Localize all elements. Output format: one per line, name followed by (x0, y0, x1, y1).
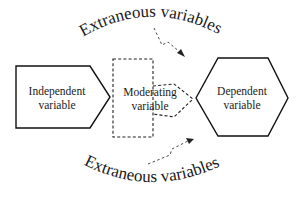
dependent-variable-node: Dependent variable (196, 58, 288, 136)
independent-label-line2: variable (38, 99, 75, 111)
hexagon-shape (196, 58, 288, 136)
arrowhead-icon (177, 49, 185, 57)
dependent-label-line1: Dependent (217, 85, 268, 98)
moderating-variable-node: Moderating variable (113, 59, 193, 137)
extraneous-top-label: Extraneous variables (76, 2, 225, 40)
extraneous-variables-bottom: Extraneous variables (82, 151, 222, 186)
extraneous-top-arrow (154, 28, 185, 57)
extraneous-variables-top: Extraneous variables (76, 2, 225, 40)
svg-text:Extraneous variables: Extraneous variables (82, 151, 222, 186)
pentagon-shape (16, 66, 110, 128)
moderating-label-line1: Moderating (123, 86, 177, 99)
diagram-canvas: Extraneous variables Independent variabl… (0, 0, 304, 202)
dependent-label-line2: variable (223, 99, 260, 111)
independent-label-line1: Independent (29, 85, 87, 98)
independent-variable-node: Independent variable (16, 66, 110, 128)
moderating-label-line2: variable (131, 100, 168, 112)
dashed-box-shape (113, 59, 153, 137)
svg-text:Extraneous variables: Extraneous variables (76, 2, 225, 40)
extraneous-bottom-label: Extraneous variables (82, 151, 222, 186)
extraneous-bottom-arrow (148, 138, 194, 164)
